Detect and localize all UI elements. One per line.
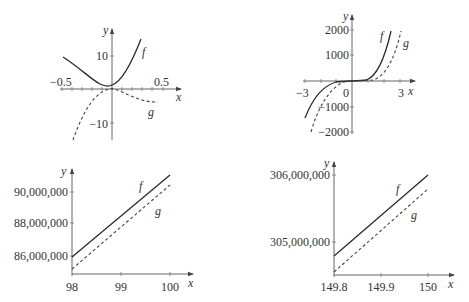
x-tick-label: 0 <box>343 86 349 100</box>
y-axis-label: y <box>60 164 67 178</box>
y-tick-label: 88,000,000 <box>14 216 68 230</box>
f-label: f <box>142 45 147 59</box>
x-tick-label: 149.9 <box>368 280 395 294</box>
plot-bottom-right: y x f g 149.8 149.9 150 306,000,000 305,… <box>270 156 454 294</box>
curve-g <box>334 189 428 272</box>
x-tick-label: 150 <box>419 280 437 294</box>
f-label: f <box>139 179 144 193</box>
y-tick-label: 86,000,000 <box>14 249 68 263</box>
x-tick-label: 98 <box>66 280 78 294</box>
x-tick-label: −0.5 <box>50 75 72 89</box>
x-tick-label: 0.5 <box>154 75 169 89</box>
y-tick-label: 305,000,000 <box>270 235 330 249</box>
plot-bottom-left: y x f g 98 99 100 90,000,000 88,000,000 … <box>14 164 194 294</box>
y-tick-label: 2000 <box>325 23 349 37</box>
curve-g <box>72 185 170 269</box>
y-tick-label: −1000 <box>318 100 349 114</box>
g-label: g <box>411 208 417 222</box>
f-label: f <box>380 29 385 43</box>
plot-top-right: y x f g −3 0 3 2000 1000 −1000 −2000 <box>296 9 415 139</box>
plot-top-left: y x f g −0.5 0.5 10 −10 <box>50 23 182 140</box>
y-tick-label: 90,000,000 <box>14 185 68 199</box>
y-axis-label: y <box>102 23 109 37</box>
y-tick-label: −2000 <box>318 125 349 139</box>
x-tick-label: −3 <box>296 86 309 100</box>
y-axis-label: y <box>342 9 349 23</box>
x-tick-label: 149.8 <box>321 280 348 294</box>
y-tick-label: 10 <box>96 49 108 63</box>
x-tick-label: 3 <box>398 86 404 100</box>
x-tick-label: 99 <box>115 280 127 294</box>
x-axis-label: x <box>175 90 182 104</box>
y-tick-label: 306,000,000 <box>270 168 330 182</box>
g-label: g <box>148 105 154 119</box>
g-label: g <box>155 204 161 218</box>
x-tick-label: 100 <box>161 280 179 294</box>
figure: y x f g −0.5 0.5 10 −10 y x f g −3 0 3 2… <box>0 0 469 302</box>
y-tick-label: 1000 <box>325 48 349 62</box>
f-label: f <box>396 182 401 196</box>
g-label: g <box>403 36 409 50</box>
x-axis-label: x <box>447 277 454 291</box>
x-axis-label: x <box>187 276 194 290</box>
x-axis-label: x <box>407 84 414 98</box>
y-tick-label: −10 <box>89 117 108 131</box>
curve-g <box>73 89 158 140</box>
